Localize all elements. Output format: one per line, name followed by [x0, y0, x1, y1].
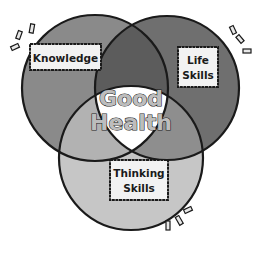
good-health-line1: Good [99, 86, 163, 111]
thinking-skills-label-line1: Thinking [113, 167, 164, 179]
life-skills-emphasis-marks [229, 26, 251, 53]
life-skills-label-line1: Life [187, 54, 209, 66]
good-health-line2: Health [90, 110, 172, 135]
life-skills-label-line2: Skills [182, 69, 214, 81]
thinking-skills-label-line2: Skills [123, 182, 155, 194]
venn-diagram: Knowledge Life Skills Thinking Skills Go… [0, 0, 259, 254]
knowledge-label: Knowledge [33, 52, 98, 64]
good-health-label: Good Health [90, 86, 172, 135]
knowledge-label-box: Knowledge [30, 44, 101, 70]
life-skills-label-box: Life Skills [178, 47, 218, 87]
thinking-skills-label-box: Thinking Skills [110, 160, 168, 200]
